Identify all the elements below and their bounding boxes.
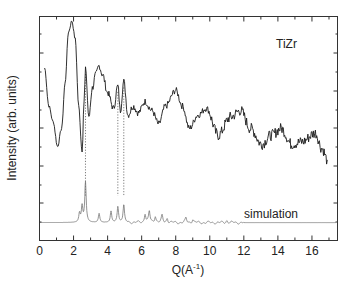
x-axis-label: Q(A-1) xyxy=(172,262,204,277)
x-tick-label: 2 xyxy=(64,244,84,258)
series-label-tizr: TiZr xyxy=(276,37,297,51)
x-tick-label: 8 xyxy=(166,244,186,258)
x-tick-label: 6 xyxy=(132,244,152,258)
series-layer xyxy=(40,21,336,224)
x-tick-label: 0 xyxy=(30,244,50,258)
series-label-simulation: simulation xyxy=(244,207,298,221)
y-axis-label: Intensity (arb. units) xyxy=(5,75,19,180)
x-tick-label: 10 xyxy=(200,244,220,258)
x-tick-label: 12 xyxy=(234,244,254,258)
x-tick-label: 16 xyxy=(302,244,322,258)
x-tick-label: 14 xyxy=(268,244,288,258)
x-tick-label: 4 xyxy=(98,244,118,258)
